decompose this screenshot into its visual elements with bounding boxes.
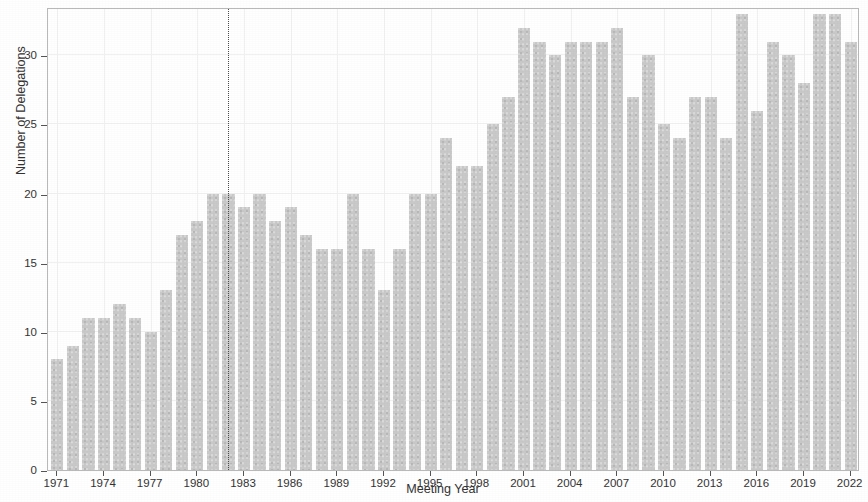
- y-tick-label: 30: [7, 49, 37, 61]
- bar-1981: [207, 194, 219, 470]
- y-tick-label: 20: [7, 188, 37, 200]
- bar-1976: [129, 318, 141, 470]
- bar-2002: [533, 42, 545, 470]
- x-tick-mark: [850, 471, 851, 476]
- bar-2010: [658, 124, 670, 470]
- bar-1984: [253, 194, 265, 470]
- y-tick-label: 5: [7, 395, 37, 407]
- y-tick-mark: [41, 264, 47, 265]
- x-tick-mark: [523, 471, 524, 476]
- y-tick-mark: [41, 402, 47, 403]
- bar-2007: [611, 28, 623, 470]
- y-tick-mark: [41, 125, 47, 126]
- bar-1977: [145, 332, 157, 470]
- x-tick-mark: [663, 471, 664, 476]
- x-tick-mark: [150, 471, 151, 476]
- x-tick-mark: [196, 471, 197, 476]
- bar-1990: [347, 194, 359, 470]
- bar-1979: [176, 235, 188, 470]
- bar-1980: [191, 221, 203, 470]
- bar-2015: [736, 14, 748, 470]
- bar-1996: [440, 138, 452, 470]
- bar-2016: [751, 111, 763, 470]
- y-tick-label: 10: [7, 326, 37, 338]
- x-tick-mark: [336, 471, 337, 476]
- bar-2003: [549, 55, 561, 470]
- x-tick-mark: [756, 471, 757, 476]
- bar-2021: [829, 14, 841, 470]
- x-tick-mark: [383, 471, 384, 476]
- bar-1972: [67, 346, 79, 470]
- reference-line-1982: [228, 9, 229, 470]
- bar-1973: [82, 318, 94, 470]
- bar-2017: [767, 42, 779, 470]
- bar-1997: [456, 166, 468, 470]
- bar-2012: [689, 97, 701, 470]
- bar-2004: [565, 42, 577, 470]
- bar-1974: [98, 318, 110, 470]
- y-tick-label: 15: [7, 257, 37, 269]
- bar-1995: [425, 194, 437, 470]
- bar-2006: [596, 42, 608, 470]
- y-axis-label: Number of Delegations: [14, 46, 28, 175]
- bar-2008: [627, 97, 639, 470]
- x-tick-mark: [570, 471, 571, 476]
- bar-1985: [269, 221, 281, 470]
- bar-2009: [642, 55, 654, 470]
- bar-1999: [487, 124, 499, 470]
- bar-1988: [316, 249, 328, 470]
- x-tick-mark: [803, 471, 804, 476]
- bar-2014: [720, 138, 732, 470]
- bar-2019: [798, 83, 810, 470]
- x-tick-mark: [616, 471, 617, 476]
- plot-area: [47, 8, 859, 471]
- x-tick-mark: [476, 471, 477, 476]
- bar-2005: [580, 42, 592, 470]
- bar-2011: [673, 138, 685, 470]
- bar-1998: [471, 166, 483, 470]
- bar-2022: [845, 42, 857, 470]
- x-axis-label-text: Meeting Year: [406, 482, 480, 496]
- bar-2018: [782, 55, 794, 470]
- bar-chart: Number of Delegations 051015202530 19711…: [0, 0, 868, 502]
- bar-1991: [362, 249, 374, 470]
- bar-1987: [300, 235, 312, 470]
- y-tick-mark: [41, 56, 47, 57]
- bar-1971: [51, 359, 63, 470]
- bar-2000: [502, 97, 514, 470]
- bar-2020: [813, 14, 825, 470]
- y-tick-mark: [41, 471, 47, 472]
- bar-1989: [331, 249, 343, 470]
- x-tick-mark: [243, 471, 244, 476]
- y-tick-mark: [41, 195, 47, 196]
- x-tick-mark: [430, 471, 431, 476]
- bar-2013: [705, 97, 717, 470]
- x-tick-mark: [103, 471, 104, 476]
- bar-1978: [160, 290, 172, 470]
- y-tick-mark: [41, 333, 47, 334]
- x-tick-mark: [710, 471, 711, 476]
- bar-1994: [409, 194, 421, 470]
- x-tick-mark: [56, 471, 57, 476]
- x-tick-mark: [290, 471, 291, 476]
- bar-2001: [518, 28, 530, 470]
- bar-1992: [378, 290, 390, 470]
- bar-1975: [113, 304, 125, 470]
- bar-1983: [238, 207, 250, 470]
- bar-1993: [393, 249, 405, 470]
- bar-1986: [285, 207, 297, 470]
- x-axis-label: Meeting Year: [0, 482, 868, 496]
- y-tick-label: 0: [7, 464, 37, 476]
- y-tick-label: 25: [7, 118, 37, 130]
